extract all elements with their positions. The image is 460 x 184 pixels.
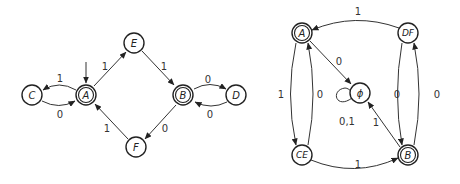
edge-label-B-D: 0 <box>205 74 211 85</box>
state-label: C <box>29 90 36 101</box>
edge-label-F-A: 1 <box>104 123 110 134</box>
state-label: E <box>131 38 138 49</box>
edge-label-A-E: 1 <box>102 61 108 72</box>
edge-CE-A <box>308 43 313 145</box>
edge-A-C <box>43 85 76 90</box>
edge-label-CE-A: 0 <box>317 89 323 100</box>
edge-label-empty-loop: 0,1 <box>339 116 355 127</box>
edge-label-DF-A: 1 <box>355 6 361 17</box>
right-diagram: 1 0 1 0 0,1 1 0 0 1 A DF <box>278 6 440 170</box>
edge-label-B-F: 0 <box>162 123 168 134</box>
edge-D-B <box>195 102 227 106</box>
edge-E-B <box>142 51 174 85</box>
state-label: F <box>133 142 139 153</box>
state-CE: CE <box>292 145 312 165</box>
edge-label-A-CE: 1 <box>278 89 284 100</box>
edge-A-CE <box>291 43 297 145</box>
state-label: DF <box>402 28 415 38</box>
edge-label-A-empty: 0 <box>336 56 342 67</box>
edge-label-D-B: 0 <box>207 109 213 120</box>
state-label: A <box>298 28 306 39</box>
state-label: A <box>82 90 90 101</box>
edge-label-C-A: 0 <box>57 109 63 120</box>
edge-DF-A <box>312 20 399 30</box>
state-label: CE <box>296 150 308 160</box>
state-D: D <box>226 85 246 105</box>
state-E: E <box>124 33 144 53</box>
edge-B-D <box>194 85 226 90</box>
edge-B-DF <box>414 43 419 145</box>
edge-label-B-empty: 1 <box>373 117 379 128</box>
edge-label-CE-B: 1 <box>355 159 361 170</box>
state-label: ϕ <box>357 88 364 99</box>
edge-label-DF-B: 0 <box>394 89 400 100</box>
left-diagram: 1 0 1 1 0 0 0 1 C A <box>22 33 246 157</box>
state-C: C <box>22 85 42 105</box>
edge-B-F <box>145 105 176 139</box>
state-A: A <box>292 23 312 43</box>
state-label: B <box>180 90 187 101</box>
automata-figure: 1 0 1 1 0 0 0 1 C A <box>0 0 460 184</box>
edge-label-E-B: 1 <box>161 61 167 72</box>
state-F: F <box>126 137 146 157</box>
state-label: B <box>405 150 412 161</box>
state-A: A <box>76 85 96 105</box>
state-B: B <box>173 85 193 105</box>
state-DF: DF <box>398 23 418 43</box>
edge-label-A-C: 1 <box>57 73 63 84</box>
edge-A-E <box>94 52 126 86</box>
state-empty: ϕ <box>350 83 370 103</box>
edge-F-A <box>95 104 128 139</box>
edge-C-A <box>42 101 75 106</box>
edge-A-empty <box>310 41 351 84</box>
state-label: D <box>232 90 240 101</box>
edge-label-B-DF: 0 <box>434 89 440 100</box>
state-B: B <box>398 145 418 165</box>
